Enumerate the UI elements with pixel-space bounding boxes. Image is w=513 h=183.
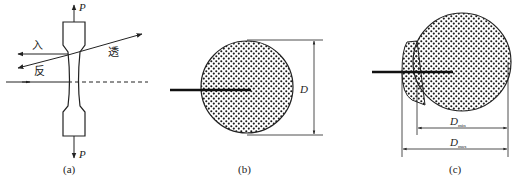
caption-a: (a): [63, 163, 76, 176]
transmitted-ray-icon: [68, 34, 142, 55]
diameter-label: D: [299, 83, 308, 95]
panel-c-deformed-section: Dmin Dmax (c): [372, 13, 511, 176]
load-label-bottom: P: [78, 148, 86, 160]
deformed-section-circle: [413, 13, 511, 111]
caption-c: (c): [449, 163, 462, 176]
dmin-label: Dmin: [449, 115, 466, 128]
reflected-label: 反: [34, 65, 45, 78]
caption-b: (b): [238, 163, 251, 176]
transmitted-label: 透: [108, 46, 119, 59]
load-label-top: P: [78, 1, 86, 13]
figure-canvas: P P 入 反 透 (a) D (b) Dmin Dmax (c): [0, 0, 513, 183]
cross-section-circle: [201, 41, 293, 133]
specimen-outline: [63, 22, 85, 136]
panel-a-tensile-specimen: P P 入 反 透 (a): [6, 1, 148, 176]
dmax-label: Dmax: [449, 136, 467, 149]
panel-b-cross-section: D (b): [170, 40, 323, 176]
incident-label: 入: [32, 39, 43, 52]
